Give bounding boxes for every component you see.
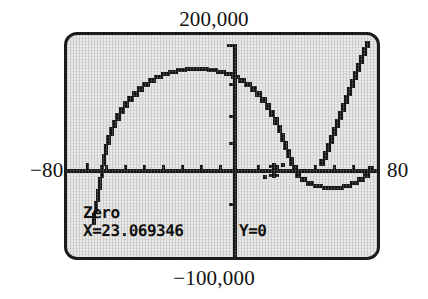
x-min-label: −80: [30, 160, 63, 181]
zero-readout-x-value: X=23.069346: [83, 223, 183, 239]
y-min-label: −100,000: [0, 268, 428, 289]
zero-readout-y-value: Y=0: [239, 223, 266, 239]
y-max-label: 200,000: [0, 9, 428, 30]
calculator-screen: Zero X=23.069346 Y=0: [64, 32, 380, 260]
zero-readout-title: Zero: [83, 205, 120, 221]
x-axis: [67, 163, 377, 173]
calculator-figure: 200,000 −80 80 −100,000: [0, 0, 428, 299]
x-max-label: 80: [387, 160, 408, 181]
